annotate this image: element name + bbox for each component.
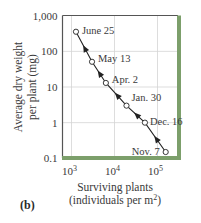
point-label: June 25: [82, 25, 114, 36]
point-label: Jan. 30: [131, 92, 161, 103]
point-label: May 13: [98, 53, 130, 64]
y-axis-label-line2: per plant (mg): [26, 54, 39, 120]
data-point-marker: [142, 120, 147, 125]
x-axis-label-line2: (individuals per m2): [69, 193, 161, 208]
arrow-icon: [98, 70, 104, 77]
y-tick-label: 100: [41, 45, 58, 57]
y-tick-label: 0.1: [44, 152, 58, 164]
data-point-marker: [103, 80, 108, 85]
frame-right-accent: [177, 16, 181, 160]
y-tick-label: 1,000: [33, 10, 58, 22]
y-axis-label-line1: Average dry weight: [12, 41, 25, 132]
plot-frame: [62, 16, 181, 161]
data-point-marker: [73, 29, 78, 34]
data-point-marker: [124, 103, 129, 108]
point-labels: Nov. 7Dec. 16Jan. 30Apr. 2May 13June 25: [82, 25, 183, 157]
data-point-marker: [89, 59, 94, 64]
frame-bottom-accent: [62, 156, 181, 160]
x-tick-label: 103: [62, 164, 77, 177]
panel-label: (b): [20, 198, 35, 213]
point-label: Apr. 2: [112, 74, 138, 85]
y-tick-label: 10: [47, 81, 59, 93]
point-label: Nov. 7: [132, 146, 160, 157]
x-tick-label: 104: [105, 164, 120, 177]
y-axis-label: Average dry weight per plant (mg): [12, 41, 39, 132]
point-label: Dec. 16: [150, 116, 183, 127]
x-tick-label: 105: [148, 164, 163, 177]
x-axis-ticks: 103104105: [62, 164, 163, 177]
chart: 1,0001001010.1 103104105 Nov. 7Dec. 16Ja…: [0, 0, 201, 223]
gridlines: [63, 16, 179, 159]
y-tick-label: 1: [52, 117, 58, 129]
data-point-marker: [163, 149, 168, 154]
x-axis-label-line1: Surviving plants: [77, 181, 153, 194]
